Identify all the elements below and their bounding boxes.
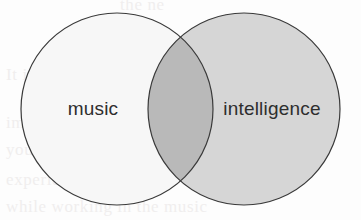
venn-label-intelligence: intelligence xyxy=(223,98,320,119)
venn-label-music: music xyxy=(68,98,119,119)
bleed-line: the ne xyxy=(120,0,165,14)
venn-diagram-svg: the ne It is no reason to exercise and a… xyxy=(0,0,361,220)
venn-diagram-figure: the ne It is no reason to exercise and a… xyxy=(0,0,361,220)
